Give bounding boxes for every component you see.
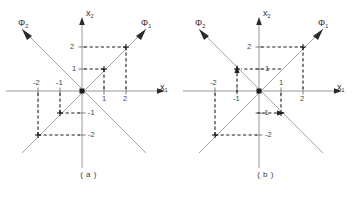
point-marker-a--1--1 — [57, 110, 63, 116]
xtick-label-a-2: 2 — [123, 95, 127, 103]
phi1-label-b: Φ1 — [318, 19, 328, 28]
ytick-label-b--2: -2 — [265, 131, 272, 139]
point-marker-a-2-2 — [123, 44, 129, 50]
x-axis-label-b: x1 — [337, 83, 345, 92]
point-marker-a--2--2 — [35, 132, 41, 138]
ytick-label-a-2: 2 — [70, 43, 74, 51]
figure-container: x1 x2 Φ2 Φ1 -2 -1 1 2 2 1 -1 -2 ( a ) — [0, 0, 354, 200]
y-axis-label-a: x2 — [86, 9, 94, 18]
panel-b-caption: ( b ) — [177, 170, 354, 179]
phi2-arrow-icon — [199, 29, 209, 40]
y-axis-arrow-icon — [256, 17, 262, 25]
phi1-arrow-icon — [313, 29, 323, 40]
ytick-label-a--2: -2 — [88, 131, 95, 139]
xtick-label-b--2: -2 — [210, 79, 217, 87]
panel-a: x1 x2 Φ2 Φ1 -2 -1 1 2 2 1 -1 -2 ( a ) — [0, 0, 177, 200]
ytick-label-a-1: 1 — [72, 65, 76, 73]
xtick-label-b-1: 1 — [279, 79, 283, 87]
point-marker-b--2--2 — [212, 132, 218, 138]
point-marker-b-2-2 — [300, 44, 306, 50]
point-marker-b-1--1 — [278, 110, 284, 116]
phi1-label-a: Φ1 — [141, 19, 151, 28]
phi1-arrow-icon — [136, 29, 146, 40]
phi2-label-a: Φ2 — [18, 19, 28, 28]
x-axis-label-a: x1 — [160, 83, 168, 92]
origin-marker-a — [80, 89, 85, 94]
phi2-arrow-icon — [22, 29, 32, 40]
ytick-label-b-1-upper: 1 — [265, 65, 269, 73]
ytick-label-a--1: -1 — [88, 109, 95, 117]
panel-a-caption: ( a ) — [0, 170, 177, 179]
point-marker-a-1-1 — [101, 66, 107, 72]
panel-b: x1 x2 Φ2 Φ1 -2 -1 1 2 2 1 -1 -2 ( b ) — [177, 0, 354, 200]
ytick-label-b-2: 2 — [247, 43, 251, 51]
phi2-label-b: Φ2 — [195, 19, 205, 28]
point-marker-b--1-1 — [234, 66, 240, 72]
y-axis-arrow-icon — [79, 17, 85, 25]
ytick-label-b--1: -1 — [262, 109, 269, 117]
xtick-label-b--1: -1 — [233, 95, 240, 103]
y-axis-label-b: x2 — [263, 9, 271, 18]
origin-marker-b — [257, 89, 262, 94]
xtick-label-a--2: -2 — [33, 79, 40, 87]
xtick-label-a--1: -1 — [56, 79, 63, 87]
xtick-label-b-2: 2 — [300, 95, 304, 103]
xtick-label-a-1: 1 — [102, 95, 106, 103]
